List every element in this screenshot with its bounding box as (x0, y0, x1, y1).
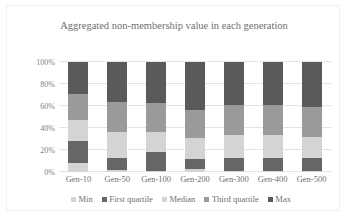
bar-segment (302, 137, 322, 158)
bar-segment (302, 171, 322, 172)
chart-legend: MinFirst quartileMedianThird quartileMax (7, 194, 348, 204)
bar-gen-400[interactable] (263, 62, 283, 172)
bar-segment (107, 158, 127, 170)
bar-segment (146, 152, 166, 171)
bar-segment (146, 171, 166, 172)
legend-swatch-icon (268, 197, 273, 202)
bar-segment (146, 62, 166, 103)
chart-frame: Aggregated non-membership value in each … (6, 5, 340, 211)
bar-segment (263, 62, 283, 105)
legend-swatch-icon (204, 197, 209, 202)
bar-segment (185, 169, 205, 172)
bar-segment (224, 158, 244, 171)
y-axis-tick-label: 20% (29, 146, 55, 155)
bar-segment (146, 103, 166, 133)
bar-segment (224, 105, 244, 135)
bar-segment (185, 138, 205, 159)
bar-segment (224, 62, 244, 105)
bar-segment (302, 62, 322, 107)
bar-segment (185, 62, 205, 110)
legend-item[interactable]: Third quartile (204, 194, 258, 204)
bar-segment (302, 158, 322, 171)
bar-segment (224, 171, 244, 172)
bar-segment (263, 171, 283, 172)
legend-item[interactable]: Max (268, 194, 291, 204)
bar-segment (68, 163, 88, 172)
bar-segment (263, 158, 283, 171)
bar-segment (185, 159, 205, 169)
bar-gen-50[interactable] (107, 62, 127, 172)
y-axis-tick-label: 0% (29, 168, 55, 177)
bar-segment (68, 94, 88, 120)
bar-segment (146, 132, 166, 152)
bar-segment (263, 105, 283, 135)
legend-item[interactable]: Min (71, 194, 93, 204)
legend-swatch-icon (71, 197, 76, 202)
bar-gen-300[interactable] (224, 62, 244, 172)
legend-label: Min (79, 194, 93, 204)
y-axis: 0%20%40%60%80%100% (27, 62, 55, 172)
y-axis-tick-label: 40% (29, 124, 55, 133)
y-axis-tick-label: 80% (29, 80, 55, 89)
y-axis-tick-label: 60% (29, 102, 55, 111)
bar-segment (68, 120, 88, 141)
y-axis-tick-label: 100% (29, 58, 55, 67)
legend-label: Max (275, 194, 291, 204)
bar-segment (68, 141, 88, 163)
legend-item[interactable]: Median (162, 194, 195, 204)
bar-segment (68, 62, 88, 94)
legend-label: Third quartile (212, 194, 259, 204)
chart-title: Aggregated non-membership value in each … (37, 20, 311, 33)
bar-segment (224, 135, 244, 158)
legend-label: First quartile (109, 194, 153, 204)
bar-gen-500[interactable] (302, 62, 322, 172)
bar-segment (107, 132, 127, 157)
legend-label: Median (169, 194, 195, 204)
legend-swatch-icon (162, 197, 167, 202)
bar-gen-100[interactable] (146, 62, 166, 172)
bar-segment (185, 110, 205, 138)
bar-gen-200[interactable] (185, 62, 205, 172)
plot-area (59, 62, 331, 172)
bar-gen-10[interactable] (68, 62, 88, 172)
bar-segment (107, 102, 127, 133)
bar-segment (263, 135, 283, 158)
bar-segment (302, 107, 322, 137)
legend-item[interactable]: First quartile (102, 194, 153, 204)
x-axis-category-label: Gen-500 (287, 174, 337, 184)
legend-swatch-icon (102, 197, 107, 202)
bar-segment (107, 62, 127, 102)
bar-segment (107, 170, 127, 172)
